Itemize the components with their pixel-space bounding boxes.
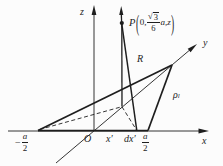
field-arrowhead-icon	[119, 6, 123, 15]
open-paren: (	[136, 9, 139, 34]
p-name: P	[129, 17, 135, 28]
rho-label: ρl	[173, 89, 180, 100]
left-vertex-coordinate: − a 2	[15, 132, 28, 153]
z-axis-arrowhead-icon	[92, 5, 97, 15]
p-coord-first: 0,	[140, 17, 147, 27]
minus-sign: −	[15, 137, 21, 148]
p-coord-rest: a,z	[160, 17, 170, 27]
x-prime-label: x′	[106, 133, 113, 144]
radicand: 3	[153, 12, 159, 22]
geometry-diagram: z y x O x′ dx′ − a 2 a 2 R ρl P ( 0, √3 …	[0, 0, 223, 166]
z-axis-label: z	[80, 6, 84, 17]
dx-prime-label: dx′	[124, 133, 136, 144]
point-p-coordinate: P ( 0, √3 6 a,z )	[129, 10, 175, 34]
x-axis-label: x	[202, 135, 206, 146]
r-distance-line	[122, 24, 137, 131]
r-distance-label: R	[137, 53, 143, 64]
right-vertex-coordinate: a 2	[142, 132, 149, 153]
p-fraction-denominator: 6	[151, 23, 155, 33]
p-coord-fraction: √3 6	[147, 12, 160, 33]
close-paren: )	[171, 9, 174, 34]
x-axis-arrowhead-icon	[199, 129, 210, 134]
sqrt-expression: √3	[147, 12, 160, 24]
origin-label: O	[84, 133, 91, 144]
y-axis-label: y	[203, 37, 207, 48]
sqrt-sign-wrap: √3	[148, 12, 159, 22]
point-p-dot	[120, 21, 124, 25]
rho-subscript: l	[178, 92, 180, 100]
left-vertex-fraction: a 2	[22, 132, 29, 153]
